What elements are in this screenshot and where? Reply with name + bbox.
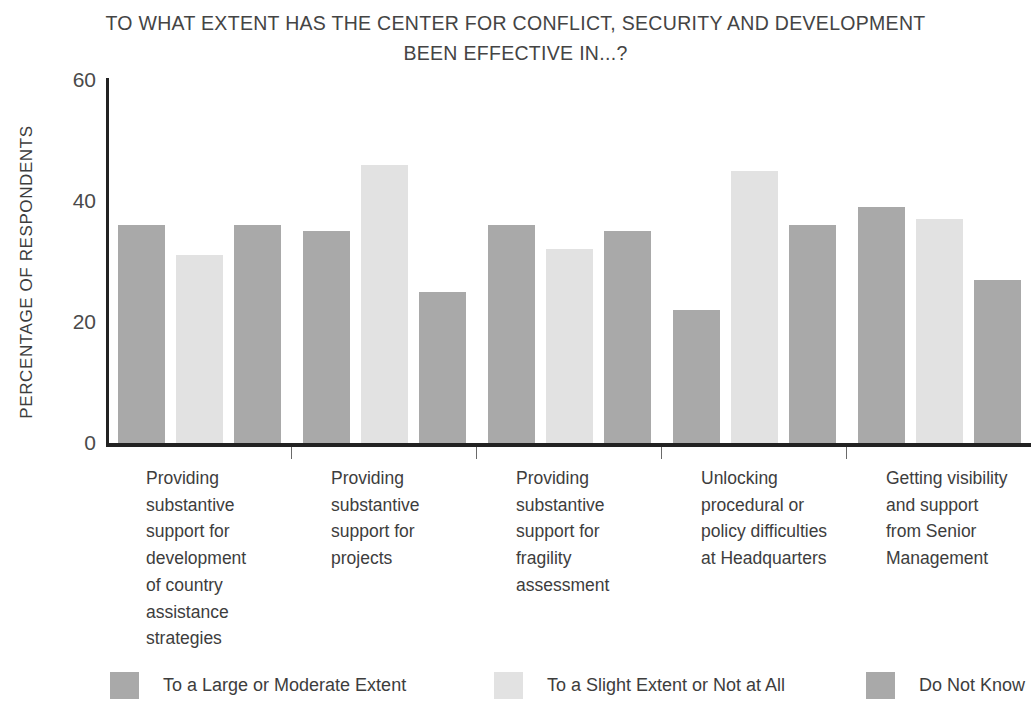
bar[interactable] — [176, 255, 223, 443]
bar[interactable] — [604, 231, 651, 443]
bar[interactable] — [234, 225, 281, 443]
y-axis-tick-labels: 0204060 — [40, 0, 96, 712]
legend-item[interactable]: To a Large or Moderate Extent — [110, 672, 406, 699]
legend-item[interactable]: Do Not Know — [866, 672, 1025, 699]
bar[interactable] — [488, 225, 535, 443]
y-tick-label: 60 — [50, 68, 96, 92]
chart-title: TO WHAT EXTENT HAS THE CENTER FOR CONFLI… — [0, 8, 1031, 68]
x-axis-tick — [291, 447, 292, 459]
bar[interactable] — [118, 225, 165, 443]
y-tick-label: 40 — [50, 189, 96, 213]
x-axis-tick — [476, 447, 477, 459]
x-axis-category-label: Providing substantive support for develo… — [146, 465, 321, 652]
bar[interactable] — [673, 310, 720, 443]
bar[interactable] — [974, 280, 1021, 443]
bar[interactable] — [731, 171, 778, 443]
legend-label: To a Slight Extent or Not at All — [547, 675, 785, 696]
y-tick-label: 0 — [50, 431, 96, 455]
x-axis-category-label: Providing substantive support for fragil… — [516, 465, 691, 599]
bar[interactable] — [789, 225, 836, 443]
y-tick-label: 20 — [50, 310, 96, 334]
bar[interactable] — [361, 165, 408, 443]
y-axis-title: PERCENTAGE OF RESPONDENTS — [17, 92, 37, 452]
x-axis-category-label: Getting visibility and support from Seni… — [886, 465, 1031, 572]
legend-label: Do Not Know — [919, 675, 1025, 696]
x-axis-tick — [846, 447, 847, 459]
legend-swatch-icon — [494, 672, 523, 699]
bars-layer — [109, 80, 1031, 443]
chart-legend: To a Large or Moderate ExtentTo a Slight… — [0, 672, 1031, 712]
x-axis-line — [106, 443, 1031, 447]
x-axis-category-label: Unlocking procedural or policy difficult… — [701, 465, 876, 572]
bar[interactable] — [419, 292, 466, 443]
legend-item[interactable]: To a Slight Extent or Not at All — [494, 672, 785, 699]
x-axis-category-label: Providing substantive support for projec… — [331, 465, 506, 572]
bar[interactable] — [546, 249, 593, 443]
x-axis-tick — [661, 447, 662, 459]
legend-swatch-icon — [110, 672, 139, 699]
bar[interactable] — [916, 219, 963, 443]
legend-label: To a Large or Moderate Extent — [163, 675, 406, 696]
legend-swatch-icon — [866, 672, 895, 699]
x-axis-category-labels: Providing substantive support for develo… — [109, 465, 1031, 665]
bar[interactable] — [303, 231, 350, 443]
bar[interactable] — [858, 207, 905, 443]
